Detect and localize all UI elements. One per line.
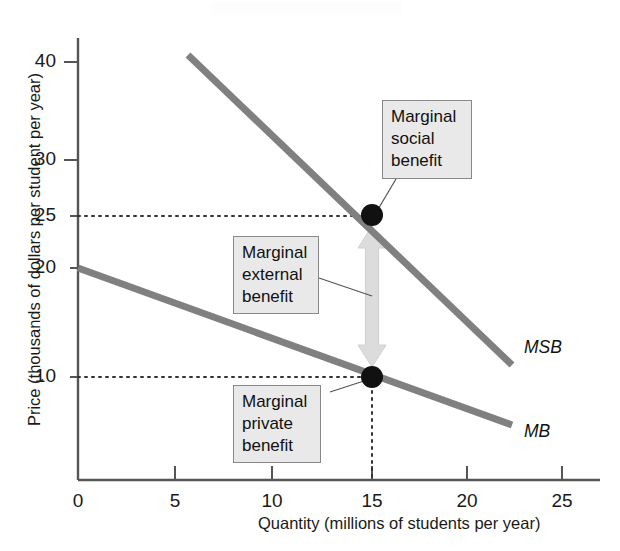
msb-curve-label: MSB — [524, 337, 562, 358]
x-tick-label-10: 10 — [250, 490, 294, 512]
x-tick-label-20: 20 — [445, 490, 489, 512]
callout-line-2: private — [242, 413, 313, 435]
economics-chart-figure: 40 30 25 20 10 0 5 10 15 20 25 Price (th… — [0, 0, 620, 551]
marginal-external-benefit-arrow — [358, 226, 386, 367]
marginal-private-benefit-callout: Marginal private benefit — [233, 385, 321, 463]
callout-line-1: Marginal — [242, 242, 311, 264]
marginal-social-benefit-point — [361, 204, 383, 226]
x-tick-label-5: 5 — [153, 490, 197, 512]
x-axis-title: Quantity (millions of students per year) — [258, 514, 540, 533]
callout-line-3: benefit — [391, 150, 464, 172]
callout-line-3: benefit — [242, 286, 311, 308]
callout-line-1: Marginal — [391, 106, 464, 128]
x-tick-label-15: 15 — [350, 490, 394, 512]
marginal-private-benefit-point — [361, 366, 383, 388]
marginal-external-benefit-callout: Marginal external benefit — [233, 236, 319, 314]
x-tick-label-25: 25 — [540, 490, 584, 512]
external-callout-leader-line — [319, 278, 372, 296]
callout-line-3: benefit — [242, 435, 313, 457]
x-tick-label-0: 0 — [56, 490, 100, 512]
callout-line-2: external — [242, 264, 311, 286]
callout-line-1: Marginal — [242, 391, 313, 413]
y-axis-title: Price (thousands of dollars per student … — [25, 50, 44, 450]
marginal-social-benefit-callout: Marginal social benefit — [382, 100, 472, 179]
social-callout-leader-line — [377, 179, 396, 211]
callout-line-2: social — [391, 128, 464, 150]
mb-curve-label: MB — [524, 421, 550, 442]
